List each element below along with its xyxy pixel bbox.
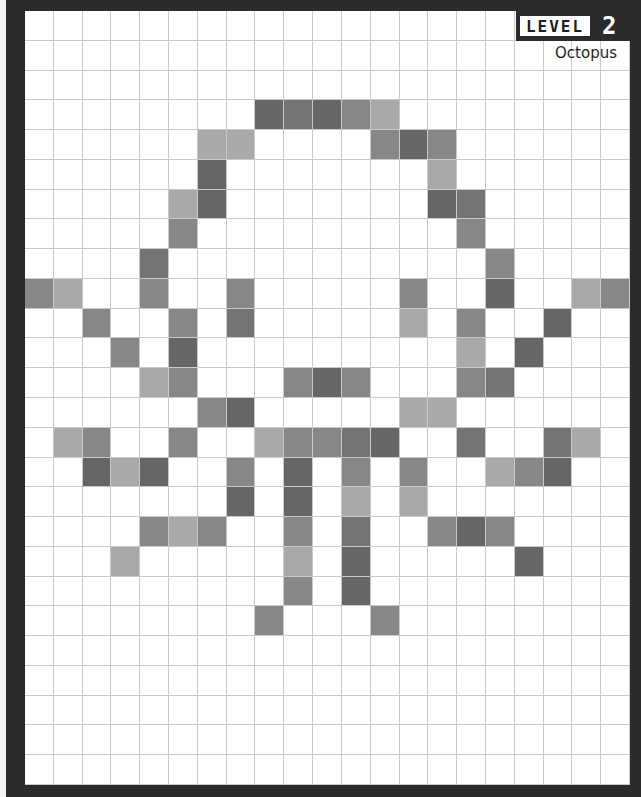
grid-cell[interactable] xyxy=(486,130,515,160)
grid-cell[interactable] xyxy=(371,279,400,309)
grid-cell-filled[interactable] xyxy=(313,428,342,458)
grid-cell-filled[interactable] xyxy=(140,279,169,309)
grid-cell[interactable] xyxy=(428,755,457,785)
grid-cell[interactable] xyxy=(83,160,112,190)
grid-cell[interactable] xyxy=(544,398,573,428)
grid-cell[interactable] xyxy=(515,71,544,101)
grid-cell[interactable] xyxy=(486,725,515,755)
grid-cell[interactable] xyxy=(515,725,544,755)
grid-cell[interactable] xyxy=(428,368,457,398)
grid-cell[interactable] xyxy=(428,279,457,309)
grid-cell[interactable] xyxy=(83,11,112,41)
grid-cell[interactable] xyxy=(371,458,400,488)
grid-cell[interactable] xyxy=(342,219,371,249)
grid-cell[interactable] xyxy=(371,249,400,279)
grid-cell[interactable] xyxy=(313,398,342,428)
grid-cell[interactable] xyxy=(457,696,486,726)
grid-cell[interactable] xyxy=(25,130,54,160)
grid-cell[interactable] xyxy=(169,458,198,488)
grid-cell[interactable] xyxy=(342,11,371,41)
grid-cell[interactable] xyxy=(572,219,601,249)
grid-cell-filled[interactable] xyxy=(284,517,313,547)
grid-cell[interactable] xyxy=(544,487,573,517)
grid-cell-filled[interactable] xyxy=(54,428,83,458)
grid-cell[interactable] xyxy=(572,338,601,368)
grid-cell[interactable] xyxy=(544,368,573,398)
grid-cell[interactable] xyxy=(227,11,256,41)
grid-cell-filled[interactable] xyxy=(83,458,112,488)
grid-cell[interactable] xyxy=(140,11,169,41)
grid-cell[interactable] xyxy=(140,309,169,339)
grid-cell[interactable] xyxy=(457,130,486,160)
grid-cell[interactable] xyxy=(313,279,342,309)
grid-cell[interactable] xyxy=(601,309,630,339)
grid-cell[interactable] xyxy=(515,279,544,309)
grid-cell[interactable] xyxy=(515,636,544,666)
grid-cell[interactable] xyxy=(400,160,429,190)
grid-cell[interactable] xyxy=(83,577,112,607)
grid-cell[interactable] xyxy=(313,458,342,488)
grid-cell-filled[interactable] xyxy=(25,279,54,309)
grid-cell[interactable] xyxy=(227,219,256,249)
grid-cell-filled[interactable] xyxy=(255,428,284,458)
grid-cell[interactable] xyxy=(457,755,486,785)
grid-cell[interactable] xyxy=(25,160,54,190)
grid-cell-filled[interactable] xyxy=(457,190,486,220)
grid-cell[interactable] xyxy=(255,398,284,428)
grid-cell[interactable] xyxy=(601,219,630,249)
grid-cell-filled[interactable] xyxy=(601,279,630,309)
grid-cell[interactable] xyxy=(54,160,83,190)
grid-cell[interactable] xyxy=(25,577,54,607)
grid-cell[interactable] xyxy=(284,279,313,309)
grid-cell[interactable] xyxy=(111,606,140,636)
grid-cell[interactable] xyxy=(227,666,256,696)
grid-cell[interactable] xyxy=(227,606,256,636)
grid-cell[interactable] xyxy=(428,725,457,755)
grid-cell[interactable] xyxy=(111,219,140,249)
grid-cell[interactable] xyxy=(198,755,227,785)
grid-cell-filled[interactable] xyxy=(428,130,457,160)
grid-cell[interactable] xyxy=(54,309,83,339)
grid-cell[interactable] xyxy=(313,41,342,71)
grid-cell[interactable] xyxy=(54,458,83,488)
grid-cell[interactable] xyxy=(342,606,371,636)
grid-cell[interactable] xyxy=(111,368,140,398)
grid-cell[interactable] xyxy=(83,279,112,309)
grid-cell[interactable] xyxy=(140,41,169,71)
grid-cell[interactable] xyxy=(572,368,601,398)
grid-cell[interactable] xyxy=(25,309,54,339)
grid-cell[interactable] xyxy=(457,606,486,636)
grid-cell[interactable] xyxy=(400,577,429,607)
grid-cell-filled[interactable] xyxy=(111,547,140,577)
grid-cell-filled[interactable] xyxy=(342,577,371,607)
grid-cell[interactable] xyxy=(371,71,400,101)
grid-cell-filled[interactable] xyxy=(284,100,313,130)
grid-cell[interactable] xyxy=(371,398,400,428)
grid-cell[interactable] xyxy=(284,725,313,755)
grid-cell[interactable] xyxy=(111,130,140,160)
grid-cell-filled[interactable] xyxy=(371,100,400,130)
grid-cell[interactable] xyxy=(486,428,515,458)
grid-cell[interactable] xyxy=(544,130,573,160)
grid-cell[interactable] xyxy=(313,696,342,726)
grid-cell[interactable] xyxy=(83,219,112,249)
grid-cell[interactable] xyxy=(601,368,630,398)
grid-cell[interactable] xyxy=(284,160,313,190)
grid-cell-filled[interactable] xyxy=(284,547,313,577)
grid-cell[interactable] xyxy=(54,636,83,666)
grid-cell-filled[interactable] xyxy=(284,368,313,398)
grid-cell-filled[interactable] xyxy=(342,487,371,517)
grid-cell[interactable] xyxy=(83,547,112,577)
grid-cell[interactable] xyxy=(83,100,112,130)
grid-cell[interactable] xyxy=(54,517,83,547)
grid-cell[interactable] xyxy=(486,71,515,101)
grid-cell[interactable] xyxy=(169,41,198,71)
grid-cell[interactable] xyxy=(486,100,515,130)
grid-cell[interactable] xyxy=(428,458,457,488)
grid-cell[interactable] xyxy=(169,249,198,279)
grid-cell[interactable] xyxy=(25,100,54,130)
grid-cell[interactable] xyxy=(111,41,140,71)
grid-cell-filled[interactable] xyxy=(198,190,227,220)
grid-cell[interactable] xyxy=(111,160,140,190)
grid-cell[interactable] xyxy=(25,606,54,636)
